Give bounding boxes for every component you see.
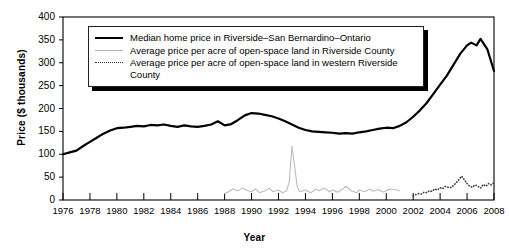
y-tick-label: 0 [21, 194, 55, 205]
chart-legend: Median home price in Riverside–San Berna… [88, 26, 424, 87]
y-axis-title: Price ($ thousands) [16, 33, 27, 163]
y-tick-label: 150 [21, 125, 55, 136]
x-axis-title: Year [0, 232, 509, 243]
legend-swatch-gray-line-icon [94, 45, 124, 56]
chart-figure: Price ($ thousands) Year 050100150200250… [0, 0, 509, 251]
y-tick-label: 400 [21, 11, 55, 22]
legend-item: Median home price in Riverside–San Berna… [94, 32, 417, 44]
y-tick-label: 50 [21, 171, 55, 182]
legend-item: Average price per acre of open-space lan… [94, 45, 417, 57]
legend-item-label: Average price per acre of open-space lan… [130, 57, 417, 80]
y-tick-label: 200 [21, 103, 55, 114]
x-tick-label: 2008 [477, 205, 509, 216]
legend-swatch-solid-line-icon [94, 32, 124, 43]
legend-item-label: Median home price in Riverside–San Berna… [130, 32, 371, 44]
y-tick-label: 350 [21, 34, 55, 45]
legend-item-label: Average price per acre of open-space lan… [130, 45, 394, 57]
y-tick-label: 100 [21, 148, 55, 159]
legend-swatch-dotted-line-icon [94, 57, 124, 68]
y-tick-label: 250 [21, 80, 55, 91]
series-line [225, 146, 400, 194]
series-line [413, 176, 494, 196]
y-tick-label: 300 [21, 57, 55, 68]
legend-item: Average price per acre of open-space lan… [94, 57, 417, 80]
